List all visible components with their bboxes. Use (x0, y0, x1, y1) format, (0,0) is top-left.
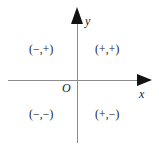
x-axis-label: x (139, 88, 144, 100)
quadrant-1-sign-label: (+,+) (95, 44, 120, 56)
coordinate-plane-diagram: y x O (−,+) (+,+) (−,−) (+,−) (0, 0, 159, 148)
arrow-up-icon (71, 7, 83, 24)
x-axis-line (8, 80, 142, 81)
y-axis-line (77, 18, 78, 143)
y-axis-label: y (85, 15, 90, 27)
quadrant-4-sign-label: (+,−) (95, 109, 120, 121)
quadrant-3-sign-label: (−,−) (29, 109, 54, 121)
quadrant-2-sign-label: (−,+) (29, 44, 54, 56)
origin-label: O (62, 82, 71, 94)
arrow-right-icon (137, 74, 152, 86)
